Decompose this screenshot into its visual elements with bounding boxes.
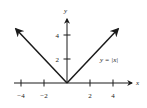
x-tick-label: −2 [40,92,48,100]
y-axis-label: y [63,7,68,15]
function-label: y = |x| [99,56,118,64]
x-tick-label: −4 [17,92,25,100]
y-tick-label: 2 [56,56,60,64]
y-ticks: 24 [56,32,71,64]
x-axis-label: x [135,79,140,87]
curve-left-branch [16,29,67,83]
y-tick-label: 4 [56,32,60,40]
x-tick-label: 4 [111,92,115,100]
absolute-value-graph: −4−224 24 x y y = |x| [0,0,147,108]
x-tick-label: 2 [88,92,92,100]
